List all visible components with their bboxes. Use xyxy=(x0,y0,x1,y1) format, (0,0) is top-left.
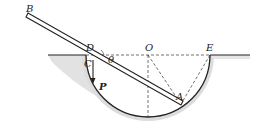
label-C: C xyxy=(84,58,92,69)
label-P: P xyxy=(98,81,107,92)
label-theta: θ xyxy=(108,54,114,65)
rod-in-hemispherical-bowl-diagram: B D O E C θ P A xyxy=(0,0,261,128)
label-B: B xyxy=(25,3,33,14)
label-E: E xyxy=(205,42,214,53)
label-O: O xyxy=(145,42,153,53)
label-D: D xyxy=(85,42,94,53)
label-A: A xyxy=(175,91,183,102)
